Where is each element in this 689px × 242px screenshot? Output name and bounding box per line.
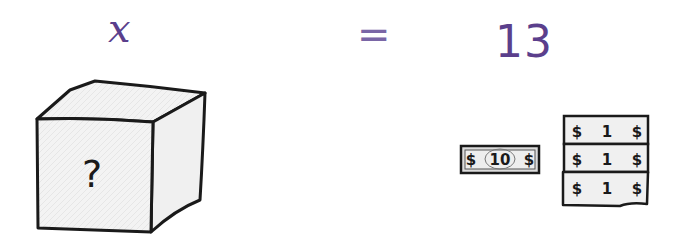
bill-2-value: 1 [602, 151, 612, 169]
bill-3-value: 1 [602, 180, 612, 198]
ten-bill-right-symbol: $ [524, 151, 534, 169]
bill-3-left-symbol: $ [572, 180, 582, 198]
bill-2-right-symbol: $ [632, 151, 642, 169]
bill-2-left-symbol: $ [572, 151, 582, 169]
one-dollar-bill-icon: $ 1 $ [564, 116, 648, 144]
one-dollar-bills-stack-icon: $ 1 $ $ 1 $ $ 1 $ [563, 116, 648, 206]
one-dollar-bill-icon: $ 1 $ [563, 172, 648, 206]
one-dollar-bill-icon: $ 1 $ [564, 144, 648, 172]
ten-dollar-bill-icon: $ 10 $ [461, 146, 539, 173]
question-mark: ? [82, 152, 102, 196]
bill-1-value: 1 [602, 123, 612, 141]
ten-bill-value: 10 [490, 151, 511, 169]
ten-bill-left-symbol: $ [466, 151, 476, 169]
bill-3-right-symbol: $ [632, 180, 642, 198]
equation-illustration: x = 13 ? $ 10 $ [0, 0, 689, 242]
bill-1-left-symbol: $ [572, 123, 582, 141]
bill-1-right-symbol: $ [632, 123, 642, 141]
drawing-canvas: ? $ 10 $ $ 1 $ $ 1 $ [0, 0, 689, 242]
mystery-box-icon: ? [37, 81, 205, 232]
